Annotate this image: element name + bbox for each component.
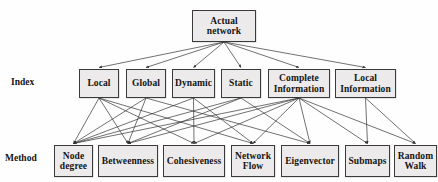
node-actual-network[interactable]: Actual network [192, 10, 256, 42]
edge-local-information-to-random-walk [366, 98, 416, 144]
edge-local-to-betweenness [99, 98, 128, 144]
node-node-degree[interactable]: Nodedegree [54, 145, 93, 177]
edge-static-to-eigenvector [241, 98, 310, 144]
node-local-line1: Local [87, 78, 110, 88]
edge-actual-network-to-global [146, 42, 224, 68]
node-network-flow-line2: Flow [235, 161, 271, 171]
node-actual-network-line2: network [207, 26, 241, 36]
edge-global-to-node-degree [74, 98, 147, 144]
edge-local-to-node-degree [74, 98, 100, 144]
edges-root-to-index [99, 42, 366, 68]
edge-actual-network-to-local [99, 42, 224, 68]
edge-complete-information-to-eigenvector [299, 98, 310, 144]
row-label-index: Index [11, 77, 34, 87]
node-betweenness[interactable]: Betweenness [98, 145, 158, 177]
node-complete-information-line2: Information [274, 84, 325, 94]
node-node-degree-line1: Node [60, 151, 87, 161]
edges-index-to-method [74, 98, 416, 144]
node-eigenvector[interactable]: Eigenvector [281, 145, 339, 177]
node-random-walk[interactable]: RandomWalk [394, 145, 437, 177]
edge-dynamic-to-cohesiveness [194, 98, 195, 144]
node-betweenness-line1: Betweenness [102, 156, 154, 166]
edge-complete-information-to-node-degree [74, 98, 300, 144]
edge-complete-information-to-random-walk [299, 98, 416, 144]
edge-actual-network-to-complete-information [224, 42, 299, 68]
edge-actual-network-to-static [224, 42, 241, 68]
node-submaps-line1: Submaps [348, 156, 386, 166]
edge-actual-network-to-local-information [224, 42, 366, 68]
diagram-canvas: Index Method Actual network LocalGlobalD… [0, 0, 438, 182]
node-network-flow-line1: Network [235, 151, 271, 161]
node-global[interactable]: Global [126, 69, 166, 98]
edge-complete-information-to-network-flow [253, 98, 299, 144]
node-local-information-line2: Information [340, 84, 391, 94]
edge-global-to-eigenvector [146, 98, 310, 144]
node-complete-information[interactable]: CompleteInformation [268, 69, 330, 98]
node-static[interactable]: Static [221, 69, 261, 98]
edge-complete-information-to-betweenness [128, 98, 299, 144]
node-static-line1: Static [229, 78, 253, 88]
node-local-information[interactable]: LocalInformation [335, 69, 396, 98]
node-submaps[interactable]: Submaps [345, 145, 390, 177]
edge-static-to-betweenness [128, 98, 241, 144]
node-random-walk-line1: Random [398, 151, 433, 161]
edge-local-information-to-submaps [366, 98, 368, 144]
edge-local-to-network-flow [99, 98, 253, 144]
node-eigenvector-line1: Eigenvector [285, 156, 335, 166]
node-actual-network-line1: Actual [207, 16, 241, 26]
edge-global-to-betweenness [128, 98, 146, 144]
node-node-degree-line2: degree [60, 161, 87, 171]
node-cohesiveness[interactable]: Cohesiveness [163, 145, 225, 177]
node-random-walk-line2: Walk [398, 161, 433, 171]
node-complete-information-line1: Complete [274, 73, 325, 83]
edge-local-to-cohesiveness [99, 98, 194, 144]
edge-dynamic-to-node-degree [74, 98, 194, 144]
node-dynamic[interactable]: Dynamic [172, 69, 215, 98]
node-network-flow[interactable]: NetworkFlow [231, 145, 275, 177]
node-dynamic-line1: Dynamic [175, 78, 212, 88]
edge-complete-information-to-cohesiveness [194, 98, 299, 144]
edge-dynamic-to-network-flow [194, 98, 254, 144]
edge-static-to-node-degree [74, 98, 242, 144]
node-local[interactable]: Local [79, 69, 119, 98]
node-local-information-line1: Local [340, 73, 391, 83]
edge-complete-information-to-submaps [299, 98, 368, 144]
row-label-method: Method [5, 153, 37, 163]
edge-actual-network-to-dynamic [194, 42, 225, 68]
node-global-line1: Global [132, 78, 160, 88]
node-cohesiveness-line1: Cohesiveness [167, 156, 222, 166]
